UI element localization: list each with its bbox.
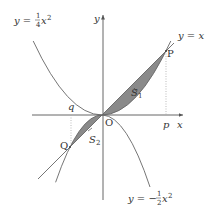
label-point-q: Q bbox=[60, 140, 68, 151]
label-p: p bbox=[163, 119, 170, 130]
svg-text:2: 2 bbox=[168, 192, 172, 200]
label-point-p: P bbox=[167, 48, 174, 59]
label-upper-parabola: y = 1 4 x 2 bbox=[13, 12, 51, 29]
svg-text:S: S bbox=[131, 87, 138, 98]
svg-text:1: 1 bbox=[157, 190, 161, 198]
label-line: y = x bbox=[177, 30, 204, 41]
y-axis-label: y bbox=[93, 13, 100, 24]
line-y-equals-x bbox=[38, 43, 174, 179]
label-region-s2: S 2 bbox=[89, 134, 100, 147]
svg-text:2: 2 bbox=[96, 139, 100, 147]
svg-text:y =: y = bbox=[13, 15, 31, 26]
svg-text:1: 1 bbox=[36, 12, 40, 20]
svg-text:2: 2 bbox=[157, 199, 161, 207]
svg-text:S: S bbox=[89, 134, 96, 145]
svg-text:1: 1 bbox=[138, 92, 142, 100]
point-q-marker bbox=[69, 146, 71, 148]
label-origin: O bbox=[105, 117, 113, 128]
graph-canvas: y = 1 4 x 2 y y = x P S 1 q O p x Q S 2 … bbox=[0, 0, 219, 223]
svg-text:y = −: y = − bbox=[127, 193, 157, 204]
svg-text:2: 2 bbox=[47, 14, 51, 22]
curve-quarter-x-squared bbox=[33, 41, 171, 115]
label-q: q bbox=[68, 101, 74, 112]
label-lower-parabola: y = − 1 2 x 2 bbox=[127, 190, 172, 207]
x-axis-label: x bbox=[177, 119, 183, 130]
